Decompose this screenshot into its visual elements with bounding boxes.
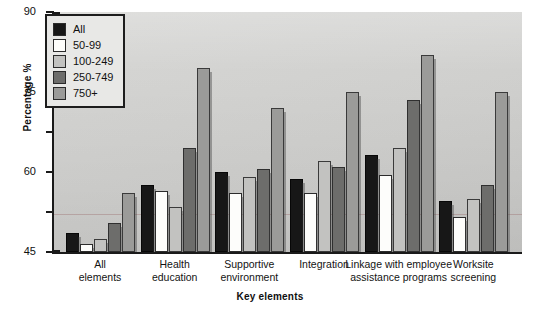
bar bbox=[495, 92, 508, 252]
legend: All50-99100-249250-749750+ bbox=[45, 14, 125, 108]
bar bbox=[393, 148, 406, 252]
x-tick-label: Supportiveenvironment bbox=[213, 258, 285, 283]
legend-label: All bbox=[73, 23, 85, 35]
bar-group bbox=[439, 12, 508, 252]
legend-item: 100-249 bbox=[53, 53, 113, 69]
legend-swatch-50-99 bbox=[53, 39, 66, 52]
y-tick-label-60: 60 bbox=[12, 165, 36, 177]
bar bbox=[318, 161, 331, 252]
bar-group bbox=[290, 12, 359, 252]
legend-label: 750+ bbox=[73, 87, 98, 99]
y-tick-15: 15 bbox=[46, 211, 54, 213]
bar-shadow bbox=[283, 112, 286, 252]
legend-label: 100-249 bbox=[73, 55, 113, 67]
bar bbox=[215, 172, 228, 252]
bar bbox=[439, 201, 452, 252]
bar bbox=[407, 100, 420, 252]
legend-item: 250-749 bbox=[53, 69, 113, 85]
bar-shadow bbox=[134, 197, 137, 252]
x-axis-title: Key elements bbox=[0, 291, 540, 302]
bar bbox=[481, 185, 494, 252]
y-tick-label-75: 75 bbox=[12, 85, 36, 97]
bar bbox=[379, 175, 392, 252]
bar-group bbox=[215, 12, 284, 252]
legend-item: All bbox=[53, 21, 113, 37]
bar bbox=[290, 179, 303, 252]
bar bbox=[304, 193, 317, 252]
bar bbox=[122, 193, 135, 252]
bar bbox=[421, 55, 434, 252]
x-tick-label-line: Worksite bbox=[437, 258, 509, 271]
legend-swatch-750- bbox=[53, 87, 66, 100]
y-tick-0: 0 bbox=[46, 251, 54, 253]
bar bbox=[169, 207, 182, 252]
y-tick-label-45: 45 bbox=[12, 245, 36, 257]
bar-group bbox=[365, 12, 434, 252]
x-tick-label-line: All bbox=[64, 258, 136, 271]
x-tick-label-line: education bbox=[139, 271, 211, 284]
y-tick-45: 45 bbox=[46, 131, 54, 133]
bar bbox=[94, 239, 107, 252]
legend-swatch-all bbox=[53, 23, 66, 36]
x-tick-label: Allelements bbox=[64, 258, 136, 283]
x-tick-label-line: Health bbox=[139, 258, 211, 271]
bar-shadow bbox=[209, 72, 212, 252]
bar bbox=[66, 233, 79, 252]
bar bbox=[453, 217, 466, 252]
bar bbox=[271, 108, 284, 252]
bar bbox=[80, 244, 93, 252]
y-tick-30: 30 bbox=[46, 171, 54, 173]
x-tick-label-line: Supportive bbox=[213, 258, 285, 271]
bar bbox=[229, 193, 242, 252]
legend-item: 750+ bbox=[53, 85, 113, 101]
bar bbox=[346, 92, 359, 252]
bar bbox=[365, 155, 378, 252]
x-tick-label-line: elements bbox=[64, 271, 136, 284]
bar bbox=[141, 185, 154, 252]
bar bbox=[183, 148, 196, 252]
bar bbox=[243, 177, 256, 252]
bar bbox=[467, 199, 480, 252]
y-axis-title: Percentage % bbox=[22, 43, 33, 153]
bar bbox=[155, 191, 168, 252]
legend-label: 250-749 bbox=[73, 71, 113, 83]
bar-group bbox=[141, 12, 210, 252]
x-tick-label-line: screening bbox=[437, 271, 509, 284]
legend-swatch-100-249 bbox=[53, 55, 66, 68]
bar bbox=[257, 169, 270, 252]
x-tick-label-line: environment bbox=[213, 271, 285, 284]
y-axis-cap bbox=[54, 250, 60, 252]
bar-shadow bbox=[433, 59, 436, 252]
bar bbox=[332, 167, 345, 252]
legend-item: 50-99 bbox=[53, 37, 113, 53]
x-tick-label: Healtheducation bbox=[139, 258, 211, 283]
bar-shadow bbox=[507, 96, 510, 252]
y-tick-90: 90 bbox=[46, 11, 54, 13]
bar-shadow bbox=[358, 96, 361, 252]
x-tick-label: Worksitescreening bbox=[437, 258, 509, 283]
y-tick-label-90: 90 bbox=[12, 5, 36, 17]
legend-label: 50-99 bbox=[73, 39, 101, 51]
legend-swatch-250-749 bbox=[53, 71, 66, 84]
bar bbox=[108, 223, 121, 252]
bar-chart-figure: Percentage % 0153045607590 AllelementsHe… bbox=[0, 0, 540, 309]
bar bbox=[197, 68, 210, 252]
